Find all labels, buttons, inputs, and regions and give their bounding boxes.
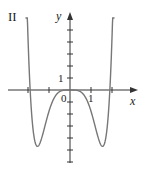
panel-label: II: [8, 9, 17, 24]
y-tick-label-1: 1: [58, 72, 64, 84]
x-tick-label-1: 1: [88, 92, 94, 104]
origin-label: 0: [61, 92, 67, 104]
x-axis-arrow-icon: [130, 87, 138, 93]
y-axis-label: y: [55, 9, 62, 23]
graph: II x y 1 0 1: [0, 0, 143, 174]
y-axis-arrow-icon: [67, 12, 73, 20]
x-axis-label: x: [129, 94, 136, 108]
